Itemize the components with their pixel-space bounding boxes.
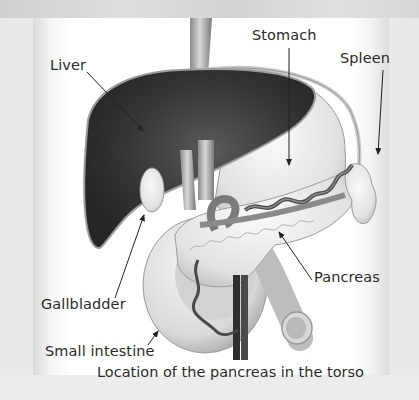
label-pancreas: Pancreas <box>314 269 380 285</box>
anatomy-figure: Liver Stomach Spleen Pancreas Gallbladde… <box>0 0 419 400</box>
label-liver: Liver <box>50 57 86 73</box>
spleen <box>345 164 376 224</box>
label-stomach: Stomach <box>252 27 317 43</box>
gallbladder <box>140 168 164 212</box>
figure-caption: Location of the pancreas in the torso <box>97 364 364 380</box>
label-small-intestine: Small intestine <box>45 343 155 359</box>
esophagus <box>190 18 212 75</box>
label-spleen: Spleen <box>340 50 390 66</box>
label-gallbladder: Gallbladder <box>41 296 126 312</box>
